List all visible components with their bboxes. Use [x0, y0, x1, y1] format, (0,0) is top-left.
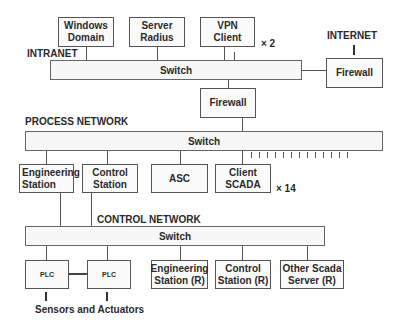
node-label: Other Scada — [283, 263, 342, 275]
tick — [299, 152, 300, 158]
plc-link — [69, 273, 87, 275]
server-radius-node: ServerRadius — [129, 17, 185, 47]
connector — [107, 151, 108, 164]
vpn-multiplier: × 2 — [261, 38, 275, 49]
connector — [46, 246, 47, 260]
tick — [339, 152, 340, 158]
windows-domain-node: WindowsDomain — [58, 17, 114, 47]
sensor-link — [45, 292, 47, 301]
intranet-switch: Switch — [50, 60, 302, 80]
node-label: Client — [214, 32, 242, 44]
tick — [267, 152, 268, 158]
node-label: VPN — [214, 20, 242, 32]
control-station-r-node: ControlStation (R) — [215, 260, 271, 289]
client-scada-multiplier: × 14 — [276, 183, 296, 194]
connector — [91, 193, 92, 226]
plc-2-node: PLC — [87, 260, 131, 289]
tick — [259, 152, 260, 158]
connector — [234, 52, 235, 60]
connector — [302, 70, 326, 71]
tick — [315, 152, 316, 158]
node-label: Engineering — [151, 263, 209, 275]
internet-label: INTERNET — [327, 30, 377, 41]
tick — [275, 152, 276, 158]
connector — [228, 80, 229, 88]
connector — [242, 246, 243, 260]
tick — [307, 152, 308, 158]
node-label: Control — [218, 263, 269, 275]
control-switch: Switch — [25, 226, 325, 246]
connector — [242, 151, 243, 164]
node-label: Station — [92, 179, 128, 191]
internet-firewall-node: Firewall — [326, 58, 383, 88]
vpn-client-node: VPNClient — [200, 17, 255, 47]
client-scada-node: ClientSCADA — [215, 164, 271, 193]
tick — [291, 152, 292, 158]
connector — [180, 246, 181, 260]
tick — [331, 152, 332, 158]
node-label: Server — [140, 20, 173, 32]
process-network-label: PROCESS NETWORK — [25, 116, 128, 127]
asc-node: ASC — [151, 164, 208, 193]
node-label: Server (R) — [283, 275, 342, 287]
node-label: Station (R) — [218, 275, 269, 287]
connector — [180, 151, 181, 164]
control-station-node: ControlStation — [82, 164, 138, 193]
tick — [251, 152, 252, 158]
node-label: Station (R) — [151, 275, 209, 287]
internet-uplink — [353, 45, 355, 55]
control-network-label: CONTROL NETWORK — [97, 214, 201, 225]
connector — [242, 118, 243, 131]
engineering-station-node: EngineeringStation — [19, 164, 74, 193]
other-scada-server-r-node: Other ScadaServer (R) — [280, 260, 344, 289]
connector — [307, 246, 308, 260]
node-label: Windows — [64, 20, 108, 32]
plc-1-node: PLC — [25, 260, 69, 289]
node-label: Engineering — [22, 167, 80, 179]
connector — [46, 151, 47, 164]
connector — [157, 47, 158, 60]
tick — [347, 152, 348, 158]
node-label: Station — [22, 179, 80, 191]
node-label: Client — [225, 167, 261, 179]
node-label: Domain — [64, 32, 108, 44]
connector — [224, 47, 225, 60]
connector — [107, 246, 108, 260]
node-label: SCADA — [225, 179, 261, 191]
connector — [86, 47, 87, 60]
tick — [283, 152, 284, 158]
process-switch: Switch — [25, 131, 383, 151]
node-label: Control — [92, 167, 128, 179]
sensor-link — [106, 292, 108, 301]
node-label: Radius — [140, 32, 173, 44]
middle-firewall-node: Firewall — [200, 88, 256, 118]
connector — [60, 193, 61, 226]
intranet-label: INTRANET — [27, 48, 78, 59]
sensors-label: Sensors and Actuators — [35, 304, 144, 315]
tick — [323, 152, 324, 158]
engineering-station-r-node: EngineeringStation (R) — [151, 260, 208, 289]
